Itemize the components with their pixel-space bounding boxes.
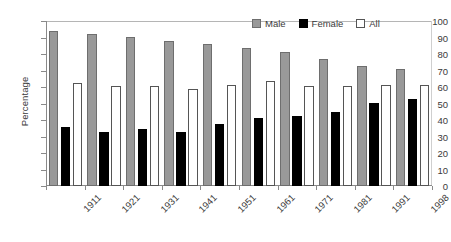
- x-tick-label: 1911: [81, 192, 103, 214]
- bar-group: [162, 21, 201, 186]
- x-tick: [85, 186, 86, 190]
- bar-group: [239, 21, 278, 186]
- legend-label-female: Female: [312, 18, 344, 29]
- bar-all-1921: [111, 86, 121, 186]
- x-tick-label: 1981: [351, 192, 374, 215]
- x-tick-label: 1921: [119, 192, 142, 215]
- x-tick: [355, 186, 356, 190]
- bar-all-1971: [304, 86, 314, 186]
- bar-female-1961: [254, 118, 264, 186]
- bar-male-1991: [357, 66, 367, 186]
- bar-female-1921: [99, 132, 109, 186]
- bar-all-1941: [188, 89, 198, 186]
- x-tick: [432, 186, 433, 190]
- bar-female-1981: [331, 112, 341, 186]
- bar-group: [316, 21, 355, 186]
- bar-male-1911: [49, 31, 59, 186]
- bar-female-1971: [292, 116, 302, 186]
- legend-label-all: All: [369, 18, 380, 29]
- bar-male-1981: [319, 59, 329, 186]
- legend-item-all: All: [356, 18, 380, 29]
- x-tick: [239, 186, 240, 190]
- bar-female-1931: [138, 129, 148, 186]
- bar-all-1961: [266, 81, 276, 186]
- x-tick-label: 1991: [390, 192, 413, 215]
- bar-all-1911: [73, 83, 83, 186]
- y-axis-title: Percentage: [19, 32, 30, 172]
- x-tick-label: 1941: [197, 192, 220, 215]
- legend-swatch-all-icon: [356, 19, 365, 28]
- x-tick: [46, 186, 47, 190]
- bar-female-1998: [408, 99, 418, 186]
- bar-group: [355, 21, 394, 186]
- bar-all-1981: [343, 86, 353, 186]
- bar-all-1951: [227, 85, 237, 186]
- bar-male-1941: [164, 41, 174, 186]
- x-tick-label: 1961: [274, 192, 297, 215]
- bar-group: [123, 21, 162, 186]
- chart-legend: Male Female All: [252, 18, 380, 29]
- bar-female-1951: [215, 124, 225, 186]
- x-tick-label: 1971: [312, 192, 335, 215]
- bar-group: [278, 21, 317, 186]
- x-tick-label: 1931: [158, 192, 181, 215]
- x-tick: [393, 186, 394, 190]
- x-tick-label: 1998: [428, 192, 451, 215]
- legend-item-male: Male: [252, 18, 286, 29]
- bar-group: [393, 21, 432, 186]
- legend-item-female: Female: [299, 18, 344, 29]
- bar-all-1998: [420, 85, 430, 186]
- legend-swatch-female-icon: [299, 19, 308, 28]
- bar-female-1911: [61, 127, 71, 186]
- bar-group: [200, 21, 239, 186]
- bar-group: [85, 21, 124, 186]
- x-tick: [316, 186, 317, 190]
- bar-group: [46, 21, 85, 186]
- x-tick-label: 1951: [235, 192, 258, 215]
- y-axis: Percentage: [0, 0, 40, 242]
- bars-layer: [46, 21, 432, 186]
- x-tick: [200, 186, 201, 190]
- x-tick: [123, 186, 124, 190]
- bar-male-1921: [87, 34, 97, 186]
- bar-male-1931: [126, 37, 136, 186]
- legend-label-male: Male: [265, 18, 286, 29]
- bar-female-1941: [176, 132, 186, 186]
- bar-female-1991: [369, 103, 379, 186]
- legend-swatch-male-icon: [252, 19, 261, 28]
- bar-all-1991: [381, 85, 391, 186]
- bar-male-1951: [203, 44, 213, 186]
- x-tick: [162, 186, 163, 190]
- bar-male-1961: [242, 48, 252, 186]
- x-tick: [278, 186, 279, 190]
- bar-male-1971: [280, 52, 290, 186]
- bar-male-1998: [396, 69, 406, 186]
- bar-all-1931: [150, 86, 160, 186]
